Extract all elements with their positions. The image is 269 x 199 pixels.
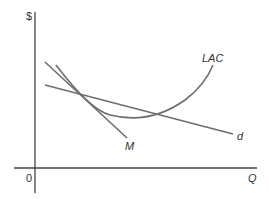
y-axis-label: $ bbox=[26, 10, 32, 22]
m-line bbox=[45, 62, 127, 138]
lac-curve bbox=[56, 65, 213, 118]
economics-diagram bbox=[0, 0, 269, 199]
d-line bbox=[45, 85, 233, 134]
origin-label: 0 bbox=[26, 172, 32, 184]
x-axis-label: Q bbox=[248, 172, 257, 184]
m-label: M bbox=[125, 140, 134, 152]
d-label: d bbox=[237, 130, 243, 142]
lac-label: LAC bbox=[202, 52, 223, 64]
